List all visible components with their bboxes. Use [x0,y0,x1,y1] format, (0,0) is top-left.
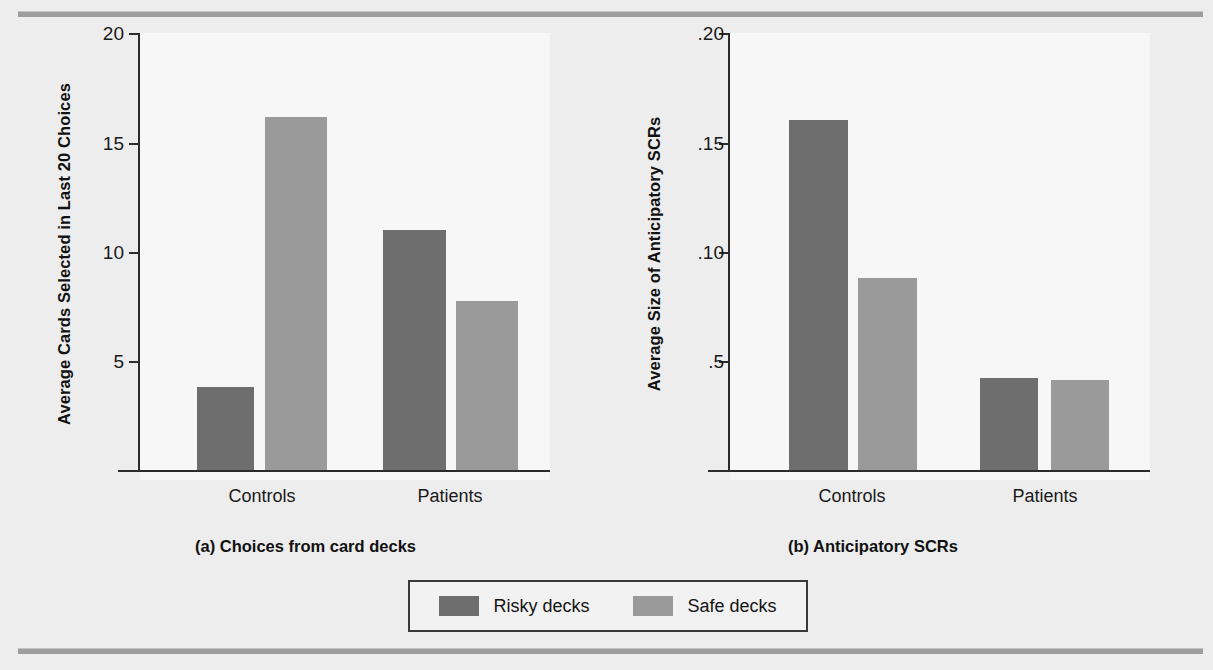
bar-a-patients-safe [456,301,518,470]
x-category-label-a-patients: Patients [370,486,530,507]
figure-container: 20 15 10 5 Average Cards Selected in Las… [0,0,1213,670]
legend-swatch-risky-decks [439,596,479,616]
x-axis-line-b [708,470,1150,472]
panel-choices-from-card-decks: 20 15 10 5 Average Cards Selected in Las… [20,24,600,484]
top-rule-divider [18,11,1203,17]
bar-a-patients-risky [383,230,446,470]
x-axis-line-a [118,470,550,472]
bars-layer-b [620,24,1200,470]
legend-item-risky-decks: Risky decks [439,596,589,617]
x-category-label-b-controls: Controls [772,486,932,507]
x-category-label-b-patients: Patients [965,486,1125,507]
legend-label-safe-decks: Safe decks [687,596,776,617]
legend-label-risky-decks: Risky decks [493,596,589,617]
x-category-label-a-controls: Controls [182,486,342,507]
bar-b-controls-safe [858,278,917,470]
bar-b-patients-safe [1051,380,1109,470]
legend-swatch-safe-decks [633,596,673,616]
legend-item-safe-decks: Safe decks [633,596,776,617]
panel-anticipatory-scrs: .20 .15 .10 .5 Average Size of Anticipat… [620,24,1200,484]
bar-b-patients-risky [980,378,1038,470]
bottom-rule-divider [18,648,1203,654]
bar-b-controls-risky [789,120,848,470]
bar-a-controls-risky [197,387,254,470]
panel-caption-a: (a) Choices from card decks [195,537,416,556]
bar-a-controls-safe [265,117,327,470]
panel-caption-b: (b) Anticipatory SCRs [788,537,958,556]
legend-box: Risky decks Safe decks [408,580,808,632]
bars-layer-a [20,24,600,470]
